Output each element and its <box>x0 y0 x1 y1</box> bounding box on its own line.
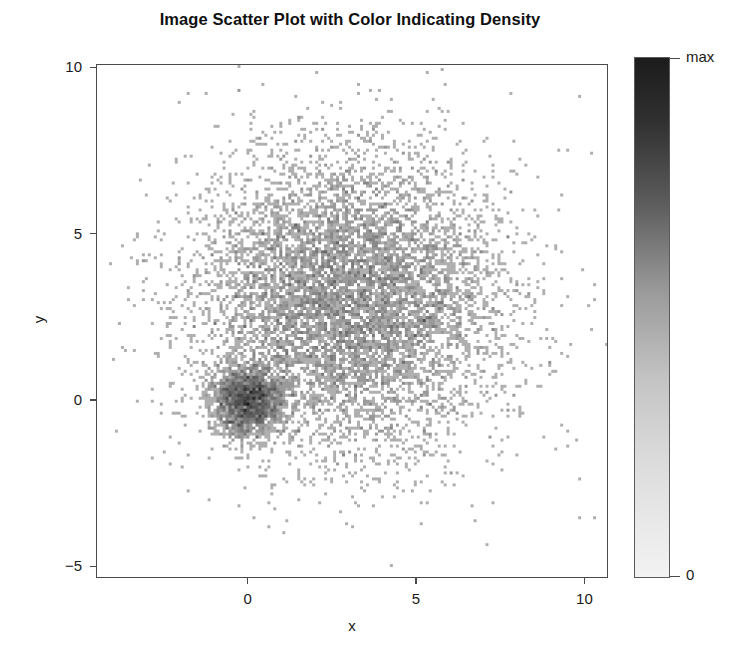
figure-root: Image Scatter Plot with Color Indicating… <box>0 0 751 650</box>
y-tick-label: 0 <box>30 391 82 408</box>
colorbar-label-min: 0 <box>686 566 694 583</box>
colorbar-label-max: max <box>686 48 714 65</box>
y-tick-label: 10 <box>30 58 82 75</box>
y-axis-label: y <box>30 306 47 334</box>
x-tick-mark <box>415 578 416 584</box>
y-tick-mark <box>90 399 96 400</box>
x-tick-mark <box>247 578 248 584</box>
colorbar-tick-max <box>670 58 680 59</box>
y-tick-label: 5 <box>30 225 82 242</box>
x-axis-label: x <box>96 617 608 634</box>
x-tick-label: 5 <box>386 590 446 607</box>
plot-panel <box>96 64 608 578</box>
page-title: Image Scatter Plot with Color Indicating… <box>0 10 700 29</box>
y-tick-mark <box>90 233 96 234</box>
x-tick-label: 0 <box>218 590 278 607</box>
x-tick-label: 10 <box>554 590 614 607</box>
colorbar: max 0 <box>634 57 670 578</box>
y-tick-label: −5 <box>30 557 82 574</box>
y-tick-mark <box>90 566 96 567</box>
y-tick-mark <box>90 67 96 68</box>
colorbar-tick-min <box>670 576 680 577</box>
scatter-density-canvas <box>97 65 607 577</box>
x-tick-mark <box>584 578 585 584</box>
colorbar-gradient <box>634 57 670 578</box>
